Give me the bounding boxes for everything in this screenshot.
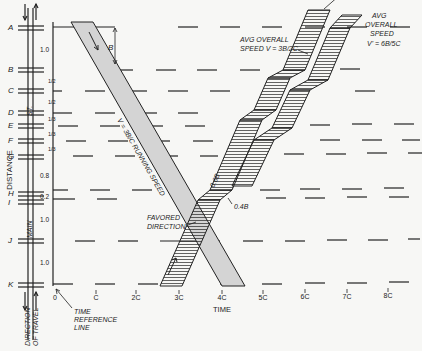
station-D: D [8, 108, 14, 117]
station-A: A [7, 23, 13, 32]
direction-label-1: DIRECTION [24, 307, 31, 346]
svg-text:1/3: 1/3 [48, 131, 56, 137]
svg-text:1/2: 1/2 [48, 78, 56, 84]
favored-label-1: FAVORED [147, 214, 180, 221]
svg-text:1/3: 1/3 [48, 116, 56, 122]
avg-speed-1-line2: SPEED V = 3B/2C [240, 45, 299, 52]
running-speed-band [71, 22, 245, 286]
main-street-label: MAIN [26, 220, 33, 238]
station-J: J [7, 236, 13, 245]
station-E: E [8, 121, 14, 130]
tick-5c: 5C [259, 294, 268, 301]
tick-6c: 6C [301, 293, 310, 300]
band-B-label: B [108, 43, 114, 52]
svg-text:1.0: 1.0 [40, 46, 49, 53]
tick-0: 0 [53, 294, 57, 301]
station-I: I [8, 198, 11, 207]
svg-text:1.0: 1.0 [40, 259, 49, 266]
tick-c: C [93, 294, 98, 301]
tick-4c: 4C [218, 294, 227, 301]
avg-speed-2-line1: AVG [371, 12, 387, 19]
time-ref-label-2: REFERENCE [74, 316, 118, 323]
svg-text:1.0: 1.0 [40, 216, 49, 223]
cross-streets [18, 26, 44, 287]
avg-speed-2-line4: V' = 6B/5C [367, 40, 401, 47]
tick-3c: 3C [175, 294, 184, 301]
street-label: ST. [26, 106, 33, 116]
tick-2c: 2C [132, 294, 141, 301]
avg-speed-1-line1: AVG OVERALL [239, 36, 289, 43]
favored-label-2: DIRECTION [147, 223, 186, 230]
time-ref-label-3: LINE [74, 324, 90, 331]
svg-text:0.2: 0.2 [40, 193, 49, 200]
avg-speed-2-line2: OVERALL [365, 21, 397, 28]
time-axis-label: TIME [213, 305, 231, 314]
svg-text:1/3: 1/3 [48, 146, 56, 152]
station-K: K [8, 280, 14, 289]
svg-text:1/2: 1/2 [48, 99, 56, 105]
tick-8c: 8C [384, 292, 393, 299]
station-B: B [8, 65, 14, 74]
station-C: C [8, 86, 14, 95]
avg-speed-2-line3: SPEED [370, 30, 394, 37]
time-space-diagram: A B C D E F G H I J K ST. MAIN DISTANCE … [0, 0, 422, 351]
distance-axis-label: DISTANCE [5, 150, 14, 190]
direction-label-2: OF TRAVEL [32, 308, 39, 346]
tick-7c: 7C [343, 293, 352, 300]
time-ref-label-1: TIME [74, 308, 91, 315]
station-F: F [8, 136, 14, 145]
svg-text:0.8: 0.8 [40, 172, 49, 179]
label-0-4B: 0.4B [234, 203, 249, 210]
